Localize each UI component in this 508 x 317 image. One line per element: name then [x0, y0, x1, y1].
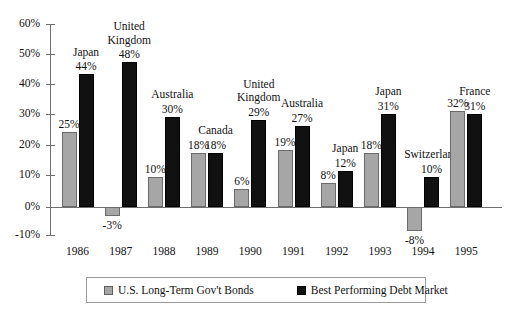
bar-1986-us-bonds: [62, 132, 77, 207]
bar-1989-us-bonds: [191, 153, 206, 207]
y-tick-label-40: 40%: [19, 76, 40, 91]
bar-1994-us-bonds: [407, 207, 422, 231]
bar-1992-us-bonds: [321, 183, 336, 207]
value-label-1987-best-market: 48%: [109, 47, 149, 61]
bar-1988-us-bonds: [148, 177, 163, 207]
bar-1986-best-market: [79, 74, 94, 207]
y-tick-label-10: 10%: [19, 167, 40, 182]
country-label-1989: Canada: [181, 124, 251, 138]
bar-1991-best-market: [295, 126, 310, 207]
legend-label-us-bonds: U.S. Long-Term Gov't Bonds: [118, 283, 254, 297]
x-axis-label-1995: 1995: [436, 244, 496, 259]
value-label-1992-best-market: 12%: [325, 156, 365, 170]
bar-1993-us-bonds: [364, 153, 379, 207]
y-tick-label-0: 0%: [25, 199, 40, 214]
bar-1993-best-market: [381, 114, 396, 207]
y-tick-minus10: -10%: [46, 235, 55, 236]
plot-area: 60% 50% 40% 30% 20% 10% 0% -10% 25%44%Ja…: [50, 18, 502, 240]
bar-1994-best-market: [424, 177, 439, 207]
y-tick-60: 60%: [46, 24, 55, 25]
value-label-1994-best-market: 10%: [412, 162, 452, 176]
country-label-1987: UnitedKingdom: [94, 20, 164, 47]
legend-item-us-bonds: U.S. Long-Term Gov't Bonds: [104, 283, 254, 297]
legend-swatch-icon-gray: [104, 286, 113, 295]
value-label-1987-us-bonds: -3%: [92, 218, 132, 232]
y-tick-40: 40%: [46, 84, 55, 85]
y-tick-label-minus10: -10%: [15, 227, 40, 242]
y-tick-30: 30%: [46, 114, 55, 115]
bar-1988-best-market: [165, 117, 180, 207]
value-label-1988-best-market: 30%: [152, 102, 192, 116]
y-tick-label-30: 30%: [19, 106, 40, 121]
value-label-1995-best-market: 31%: [455, 99, 495, 113]
chart-legend: U.S. Long-Term Gov't Bonds Best Performi…: [86, 277, 426, 303]
legend-item-best-market: Best Performing Debt Market: [297, 283, 448, 297]
value-label-1993-best-market: 31%: [368, 99, 408, 113]
bar-1991-us-bonds: [278, 150, 293, 207]
country-label-1993: Japan: [353, 85, 423, 99]
y-tick-label-20: 20%: [19, 137, 40, 152]
legend-swatch-icon-black: [297, 286, 306, 295]
country-label-1995: France: [440, 85, 508, 99]
bar-1995-best-market: [467, 114, 482, 207]
y-tick-10: 10%: [46, 175, 55, 176]
value-label-1991-best-market: 27%: [282, 111, 322, 125]
y-tick-20: 20%: [46, 145, 55, 146]
legend-label-best-market: Best Performing Debt Market: [311, 283, 448, 297]
bar-1995-us-bonds: [450, 111, 465, 207]
bar-1990-best-market: [251, 120, 266, 207]
country-label-1991: Australia: [267, 97, 337, 111]
y-tick-0: 0%: [46, 207, 55, 208]
country-label-1988: Australia: [137, 88, 207, 102]
value-label-1986-best-market: 44%: [66, 59, 106, 73]
bar-1987-best-market: [122, 62, 137, 207]
bar-1987-us-bonds: [105, 207, 120, 216]
value-label-1989-best-market: 18%: [196, 138, 236, 152]
bar-1992-best-market: [338, 171, 353, 207]
y-tick-label-60: 60%: [19, 16, 40, 31]
bar-1990-us-bonds: [234, 189, 249, 207]
y-tick-label-50: 50%: [19, 46, 40, 61]
bar-chart: 60% 50% 40% 30% 20% 10% 0% -10% 25%44%Ja…: [0, 0, 508, 317]
